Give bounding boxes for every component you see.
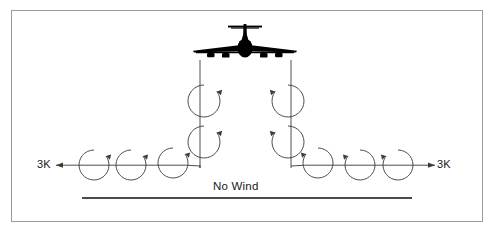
left-drift-path <box>56 165 200 166</box>
aircraft-silhouette <box>193 24 297 58</box>
wake-turbulence-diagram: 3K 3K No Wind <box>0 0 494 233</box>
left-altitude-label: 3K <box>37 158 51 170</box>
no-wind-label: No Wind <box>213 180 259 192</box>
left-drift-arrowhead <box>56 163 63 168</box>
right-drift-arrowhead <box>428 163 435 168</box>
right-altitude-label: 3K <box>437 158 451 170</box>
vortex-right-ground-1 <box>299 148 333 178</box>
vortex-left-inner-lower <box>188 126 224 158</box>
vortex-right-inner-upper <box>268 85 304 117</box>
diagram-canvas <box>0 0 494 233</box>
vortex-left-inner-upper <box>188 85 224 117</box>
vortex-right-inner-lower <box>268 126 304 158</box>
vortex-left-ground-1 <box>158 148 192 178</box>
